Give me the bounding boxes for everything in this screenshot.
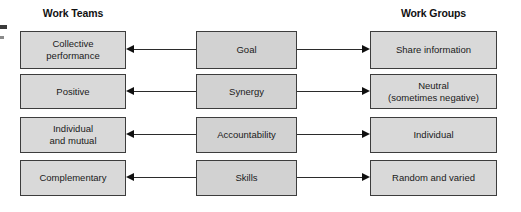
work-teams-node-4: Complementary	[20, 160, 126, 196]
work-groups-node-2-line2: (sometimes negative)	[388, 92, 479, 103]
work-teams-node-4-label: Complementary	[39, 172, 106, 184]
arrowhead-left-2	[126, 87, 134, 95]
work-teams-node-1-line2: performance	[46, 50, 99, 61]
page-edge-artifact	[0, 25, 7, 29]
attribute-node-1-label: Goal	[236, 44, 256, 56]
connector-left-1	[134, 49, 196, 50]
work-groups-node-1-label: Share information	[396, 44, 471, 56]
comparison-diagram: Work Teams Work Groups Collective perfor…	[0, 0, 521, 212]
work-teams-node-3-line2: and mutual	[49, 135, 96, 146]
work-groups-node-2-label: Neutral (sometimes negative)	[388, 80, 479, 104]
arrowhead-left-3	[126, 130, 134, 138]
attribute-node-3: Accountability	[196, 117, 297, 153]
work-teams-node-3-line1: Individual	[53, 123, 93, 134]
work-teams-node-1-line1: Collective	[52, 38, 93, 49]
attribute-node-2: Synergy	[196, 74, 297, 109]
connector-right-3	[297, 134, 362, 135]
work-groups-node-2-line1: Neutral	[418, 80, 449, 91]
work-groups-node-4: Random and varied	[370, 160, 497, 196]
connector-right-4	[297, 177, 362, 178]
work-groups-node-3-label: Individual	[413, 129, 453, 141]
attribute-node-2-label: Synergy	[229, 86, 264, 98]
attribute-node-3-label: Accountability	[217, 129, 276, 141]
arrowhead-right-1	[362, 45, 370, 53]
arrowhead-right-2	[362, 87, 370, 95]
work-teams-node-1: Collective performance	[20, 31, 126, 69]
column-header-work-groups: Work Groups	[370, 7, 497, 19]
attribute-node-4-label: Skills	[235, 172, 257, 184]
work-teams-node-2: Positive	[20, 74, 126, 109]
work-teams-node-2-label: Positive	[56, 86, 89, 98]
arrowhead-left-4	[126, 173, 134, 181]
connector-left-3	[134, 134, 196, 135]
work-groups-node-3: Individual	[370, 117, 497, 153]
column-header-work-teams: Work Teams	[20, 7, 126, 19]
arrowhead-left-1	[126, 45, 134, 53]
page-edge-artifact-secondary	[0, 36, 4, 39]
work-groups-node-2: Neutral (sometimes negative)	[370, 74, 497, 109]
arrowhead-right-3	[362, 130, 370, 138]
attribute-node-1: Goal	[196, 31, 297, 69]
work-teams-node-3-label: Individual and mutual	[49, 123, 96, 147]
work-teams-node-3: Individual and mutual	[20, 117, 126, 153]
work-groups-node-4-label: Random and varied	[392, 172, 475, 184]
connector-right-1	[297, 49, 362, 50]
connector-left-2	[134, 91, 196, 92]
arrowhead-right-4	[362, 173, 370, 181]
work-teams-node-1-label: Collective performance	[46, 38, 99, 62]
connector-left-4	[134, 177, 196, 178]
work-groups-node-1: Share information	[370, 31, 497, 69]
attribute-node-4: Skills	[196, 160, 297, 196]
connector-right-2	[297, 91, 362, 92]
